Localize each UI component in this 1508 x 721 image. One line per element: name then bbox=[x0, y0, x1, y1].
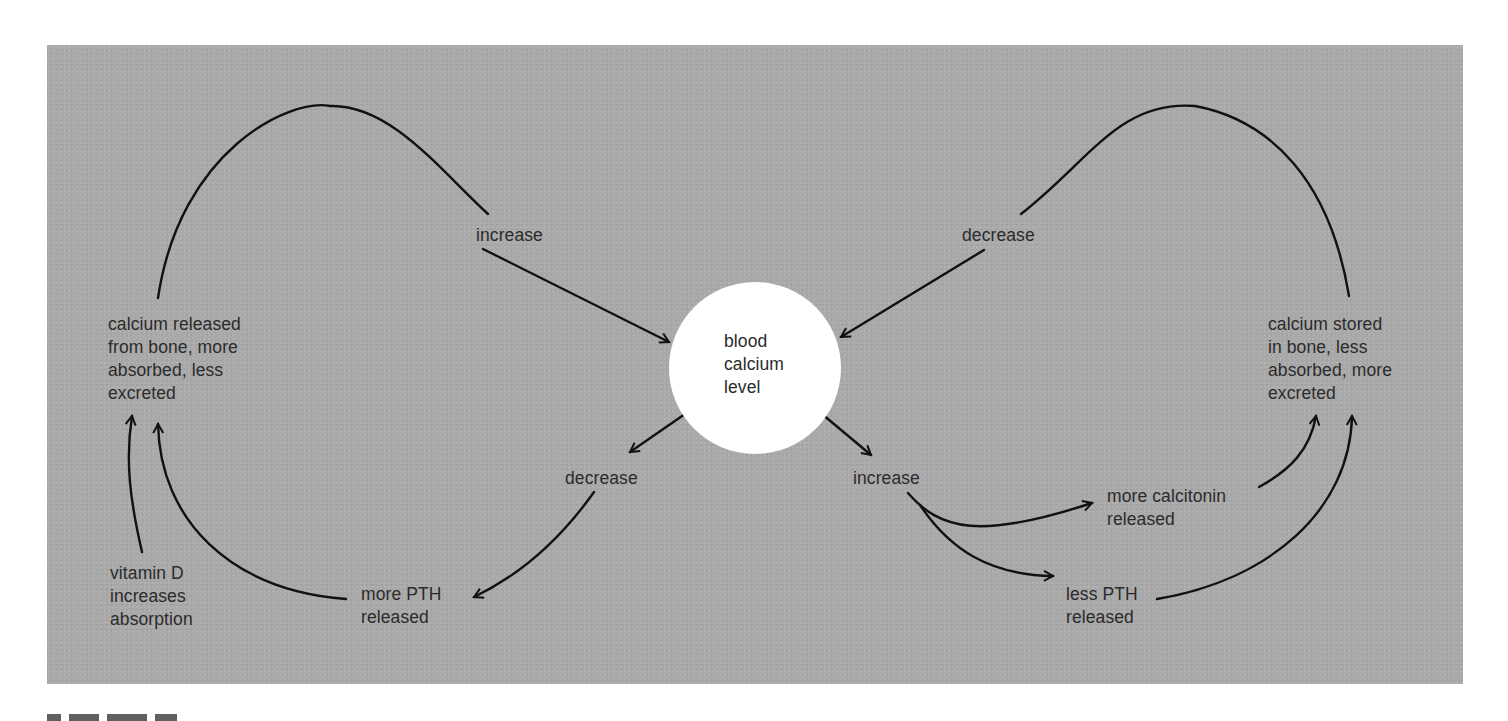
calcitonin-to-right-outcome-arrow bbox=[1259, 416, 1316, 487]
decrease-to-pth-arrow bbox=[474, 492, 594, 597]
figure-caption-clipped bbox=[47, 714, 247, 721]
increase-to-calcitonin-arrow bbox=[908, 493, 1092, 526]
right-loop-arc bbox=[1021, 106, 1349, 296]
increase-to-circle-arrow bbox=[483, 249, 669, 342]
right-outcome-label: calcium stored in bone, less absorbed, m… bbox=[1268, 313, 1392, 405]
decrease-to-circle-arrow bbox=[841, 250, 984, 337]
top-left-increase-label: increase bbox=[476, 224, 543, 247]
left-loop-arc bbox=[158, 105, 488, 298]
top-right-decrease-label: decrease bbox=[962, 224, 1035, 247]
more-calcitonin-label: more calcitonin released bbox=[1107, 485, 1226, 531]
bottom-right-increase-label: increase bbox=[853, 467, 920, 490]
bottom-left-decrease-label: decrease bbox=[565, 467, 638, 490]
blood-calcium-node: blood calcium level bbox=[669, 282, 841, 454]
less-pth-label: less PTH released bbox=[1066, 583, 1138, 629]
circle-to-increase-arrow bbox=[822, 414, 871, 455]
vitamin-d-to-left-outcome-arrow bbox=[129, 416, 142, 552]
vitamin-d-label: vitamin D increases absorption bbox=[110, 562, 193, 631]
increase-to-less-pth-arrow bbox=[920, 505, 1053, 576]
blood-calcium-label: blood calcium level bbox=[724, 330, 784, 399]
more-pth-label: more PTH released bbox=[361, 583, 442, 629]
circle-to-decrease-arrow bbox=[630, 414, 685, 452]
left-outcome-label: calcium released from bone, more absorbe… bbox=[108, 313, 241, 405]
